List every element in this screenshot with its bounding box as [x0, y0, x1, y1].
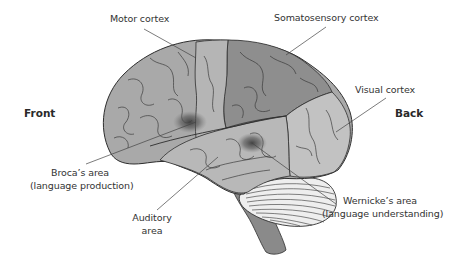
front-label: Front — [24, 107, 55, 119]
auditory-area-line2: area — [122, 224, 182, 237]
somatosensory-cortex-label: Somatosensory cortex — [274, 11, 379, 24]
wernicke-area-label: Wernicke’s area (language understanding) — [322, 194, 438, 220]
broca-area-title: Broca’s area — [30, 166, 130, 179]
wernicke-area-description: (language understanding) — [322, 207, 438, 220]
back-label: Back — [395, 107, 423, 119]
auditory-area-label: Auditory area — [122, 211, 182, 237]
broca-hotspot — [173, 111, 207, 133]
auditory-area-line1: Auditory — [122, 211, 182, 224]
broca-area-description: (language production) — [30, 179, 130, 192]
visual-cortex-label: Visual cortex — [355, 83, 415, 96]
brain-diagram — [0, 0, 452, 261]
somatosensory-leader-line — [286, 27, 326, 55]
motor-cortex-label: Motor cortex — [110, 12, 169, 25]
broca-area-label: Broca’s area (language production) — [30, 166, 130, 192]
wernicke-area-title: Wernicke’s area — [322, 194, 438, 207]
